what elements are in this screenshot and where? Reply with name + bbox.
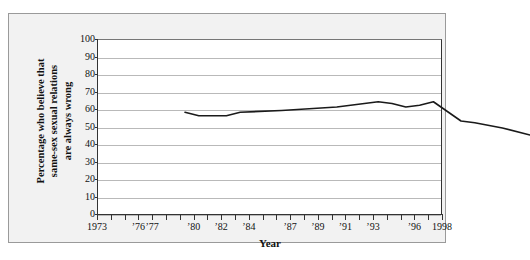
x-axis-tick-label: ’93 <box>366 222 379 232</box>
x-axis-tick-mark <box>276 215 277 220</box>
y-axis-tick-label: 50 <box>69 122 95 132</box>
y-axis-tick-label: 40 <box>69 139 95 149</box>
x-axis-tick-mark <box>111 215 112 220</box>
x-axis-tick-label: ’89 <box>311 222 324 232</box>
x-axis-tick-mark <box>180 215 181 220</box>
x-axis-tick-mark <box>125 215 126 220</box>
x-axis-tick-label: 1998 <box>432 222 452 232</box>
x-axis-tick-mark <box>401 215 402 220</box>
y-axis-tick-label: 30 <box>69 157 95 167</box>
y-axis-tick-label: 90 <box>69 52 95 62</box>
x-axis-tick-mark <box>373 215 374 220</box>
chart-figure: Percentage who believe that same-sex sex… <box>8 13 446 243</box>
x-axis-tick-mark <box>318 215 319 220</box>
y-axis-tick-label: 60 <box>69 104 95 114</box>
gridline <box>97 58 441 59</box>
x-axis-tick-mark <box>152 215 153 220</box>
x-axis-tick-mark <box>387 215 388 220</box>
x-axis-tick-mark <box>428 215 429 220</box>
y-axis-tick-label: 10 <box>69 192 95 202</box>
y-axis-tick-label: 0 <box>69 209 95 219</box>
x-axis-tick-mark <box>345 215 346 220</box>
x-axis-tick-mark <box>290 215 291 220</box>
y-axis-tick-label: 80 <box>69 69 95 79</box>
x-axis-tick-mark <box>207 215 208 220</box>
x-axis-tick-mark <box>221 215 222 220</box>
y-axis-ticks: 0102030405060708090100 <box>65 39 95 215</box>
x-axis-tick-label: ’80 <box>187 222 200 232</box>
x-axis-tick-mark <box>359 215 360 220</box>
y-axis-title-line-1: Percentage who believe that <box>34 59 47 184</box>
x-axis-tick-mark <box>263 215 264 220</box>
x-axis-tick-mark <box>332 215 333 220</box>
x-axis-tick-label: 1973 <box>87 222 107 232</box>
y-axis-title-line-2: same-sex sexual relations <box>47 65 60 177</box>
x-axis-tick-mark <box>304 215 305 220</box>
x-axis-tick-mark <box>442 215 443 220</box>
x-axis-tick-mark <box>166 215 167 220</box>
plot-area <box>97 39 442 214</box>
x-axis-tick-label: ’82 <box>215 222 228 232</box>
x-axis-tick-label: ’84 <box>242 222 255 232</box>
x-axis-tick-label: ’96 <box>408 222 421 232</box>
x-axis-title: Year <box>97 238 443 249</box>
y-axis-tick-label: 20 <box>69 174 95 184</box>
y-axis-tick-label: 70 <box>69 87 95 97</box>
y-axis-line <box>97 39 98 215</box>
x-axis-tick-mark <box>194 215 195 220</box>
y-axis-tick-label: 100 <box>69 34 95 44</box>
x-axis-tick-label: ’76 <box>132 222 145 232</box>
x-axis-tick-label: ’91 <box>339 222 352 232</box>
x-axis-tick-labels: 1973’76’77’80’82’84’87’89’91’93’961998 <box>97 222 443 236</box>
x-axis-tick-mark <box>414 215 415 220</box>
x-axis-tick-mark <box>97 215 98 220</box>
x-axis-tick-label: ’77 <box>146 222 159 232</box>
x-axis-tick-mark <box>138 215 139 220</box>
x-axis-tick-mark <box>235 215 236 220</box>
x-axis-tick-mark <box>249 215 250 220</box>
x-axis-tick-label: ’87 <box>284 222 297 232</box>
